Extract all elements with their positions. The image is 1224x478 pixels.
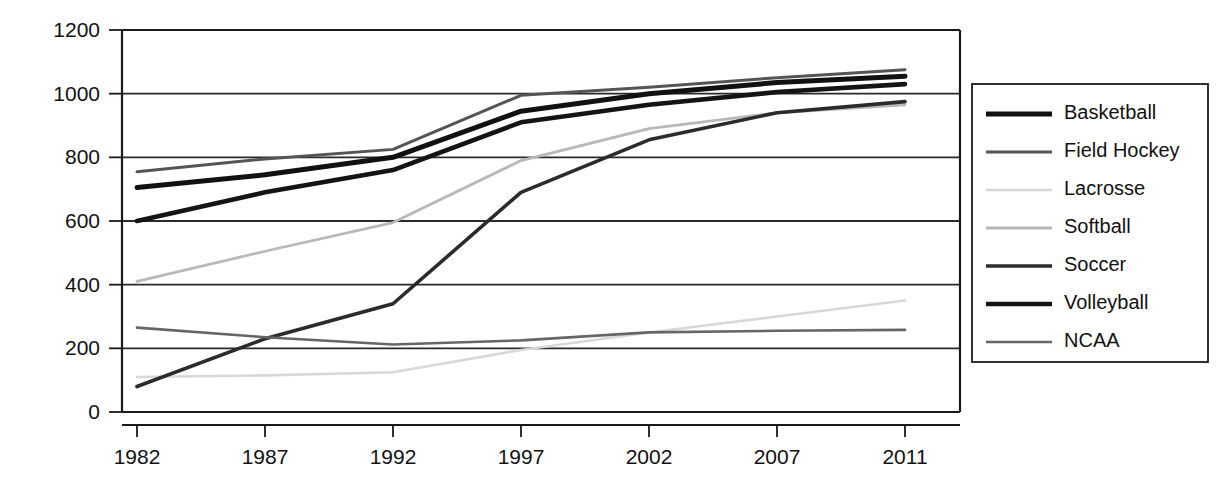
x-tick-label: 2011 [882, 445, 927, 468]
legend-label-softball: Softball [1064, 215, 1131, 237]
x-tick-label: 2007 [754, 445, 801, 468]
legend-label-lacrosse: Lacrosse [1064, 177, 1145, 199]
y-tick-label: 400 [65, 273, 100, 296]
y-tick-label: 200 [65, 336, 100, 359]
x-tick-label: 1987 [242, 445, 289, 468]
y-tick-label: 0 [88, 400, 100, 423]
chart-canvas: 020040060080010001200 198219871992199720… [0, 0, 1224, 478]
x-tick-label: 1992 [370, 445, 417, 468]
legend-label-soccer: Soccer [1064, 253, 1127, 275]
x-tick-label: 1997 [498, 445, 545, 468]
legend-label-volleyball: Volleyball [1064, 291, 1149, 313]
x-tick-label: 1982 [114, 445, 161, 468]
y-tick-label: 600 [65, 209, 100, 232]
legend-label-field-hockey: Field Hockey [1064, 139, 1180, 161]
x-tick-label: 2002 [626, 445, 673, 468]
line-chart: 020040060080010001200 198219871992199720… [0, 0, 1224, 478]
legend-label-basketball: Basketball [1064, 101, 1156, 123]
y-tick-label: 800 [65, 145, 100, 168]
y-tick-label: 1200 [53, 18, 100, 41]
legend-label-ncaa: NCAA [1064, 329, 1120, 351]
legend: BasketballField HockeyLacrosseSoftballSo… [972, 84, 1208, 362]
y-tick-label: 1000 [53, 82, 100, 105]
